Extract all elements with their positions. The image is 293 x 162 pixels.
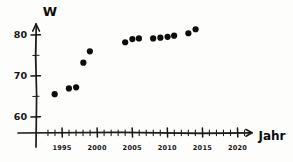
- data-point: [80, 60, 86, 66]
- data-point: [192, 26, 198, 32]
- data-point: [150, 35, 156, 41]
- data-point: [157, 35, 163, 41]
- data-point: [122, 39, 128, 45]
- x-axis-tick-label-1995: 1995: [52, 144, 71, 152]
- y-axis-line: [36, 24, 37, 147]
- x-axis-tick-label-2000: 2000: [88, 144, 107, 152]
- data-point: [171, 33, 177, 39]
- data-point: [165, 34, 171, 40]
- y-axis-tick-label-80: 80: [14, 29, 28, 40]
- x-axis-tick-label-2020: 2020: [228, 144, 247, 152]
- x-axis-tick-label-2010: 2010: [158, 144, 177, 152]
- chart-container: 199520002005201020152020607080WJahr: [0, 0, 293, 162]
- data-point: [73, 84, 79, 90]
- y-axis-tick-label-70: 70: [14, 70, 28, 81]
- x-axis-tick-label-2015: 2015: [193, 144, 212, 152]
- scatter-plot: 199520002005201020152020607080WJahr: [0, 0, 293, 162]
- data-point: [87, 48, 93, 54]
- y-axis-tick-label-60: 60: [14, 111, 28, 122]
- data-point: [136, 35, 142, 41]
- data-point: [185, 30, 191, 36]
- x-axis-tick-label-2005: 2005: [123, 144, 142, 152]
- data-point: [66, 85, 72, 91]
- data-point: [52, 91, 58, 97]
- y-axis-name: W: [43, 4, 57, 19]
- x-axis-name: Jahr: [257, 129, 285, 143]
- data-point: [129, 36, 135, 42]
